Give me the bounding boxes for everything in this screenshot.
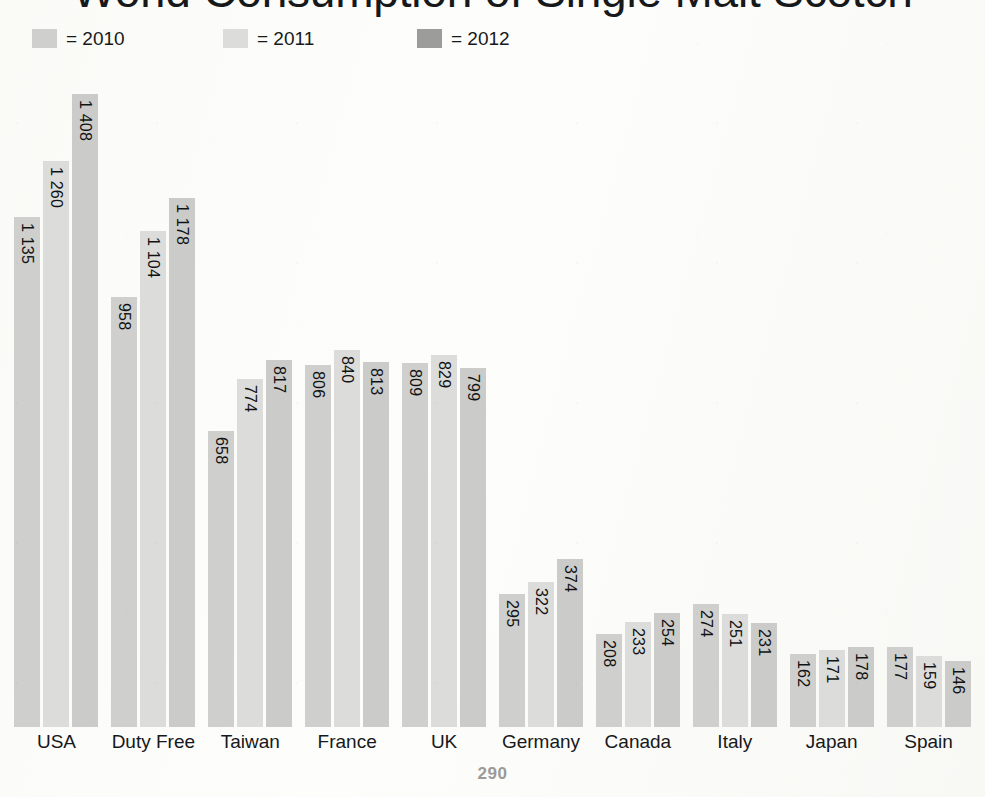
- legend-label-2011: = 2011: [257, 29, 314, 48]
- bar-groups: 1 1351 2601 4089581 1041 178658774817806…: [8, 62, 977, 727]
- category-label-uk: UK: [396, 731, 493, 759]
- bar-japan-2012[interactable]: 178: [848, 647, 874, 727]
- bar-value-label: 799: [464, 374, 482, 401]
- bar-canada-2010[interactable]: 208: [596, 634, 622, 727]
- bar-group-japan: 162171178: [783, 62, 880, 727]
- bar-value-label: 374: [561, 565, 579, 592]
- bar-usa-2012[interactable]: 1 408: [72, 94, 98, 727]
- bar-value-label: 1 178: [173, 204, 191, 245]
- bar-germany-2012[interactable]: 374: [557, 559, 583, 727]
- bar-value-label: 231: [755, 629, 773, 656]
- bar-value-label: 254: [658, 619, 676, 646]
- category-label-france: France: [299, 731, 396, 759]
- category-label-taiwan: Taiwan: [202, 731, 299, 759]
- legend-item-2012: = 2012: [417, 29, 510, 48]
- bar-value-label: 806: [309, 371, 327, 398]
- bar-value-label: 146: [949, 667, 967, 694]
- bar-value-label: 178: [852, 653, 870, 680]
- bar-value-label: 233: [629, 628, 647, 655]
- bar-uk-2010[interactable]: 809: [402, 363, 428, 727]
- bar-value-label: 177: [891, 653, 909, 680]
- legend-swatch-2011: [223, 29, 248, 48]
- bar-group-spain: 177159146: [880, 62, 977, 727]
- legend-swatch-2010: [32, 29, 57, 48]
- bar-value-label: 1 408: [76, 100, 94, 141]
- bar-duty-free-2010[interactable]: 958: [111, 297, 137, 727]
- bar-value-label: 1 104: [144, 237, 162, 278]
- bar-group-uk: 809829799: [396, 62, 493, 727]
- category-label-canada: Canada: [589, 731, 686, 759]
- bar-france-2011[interactable]: 840: [334, 350, 360, 727]
- bar-group-canada: 208233254: [589, 62, 686, 727]
- bar-duty-free-2011[interactable]: 1 104: [140, 231, 166, 727]
- category-label-japan: Japan: [783, 731, 880, 759]
- bar-value-label: 809: [406, 369, 424, 396]
- legend-item-2011: = 2011: [223, 29, 314, 48]
- bar-value-label: 958: [115, 303, 133, 330]
- bar-value-label: 813: [367, 368, 385, 395]
- bar-spain-2010[interactable]: 177: [887, 647, 913, 727]
- bar-germany-2011[interactable]: 322: [528, 582, 554, 727]
- bar-value-label: 208: [600, 640, 618, 667]
- category-label-spain: Spain: [880, 731, 977, 759]
- category-axis-labels: USADuty FreeTaiwanFranceUKGermanyCanadaI…: [8, 731, 977, 759]
- chart-legend: = 2010 = 2011 = 2012: [32, 29, 502, 53]
- bar-value-label: 159: [920, 662, 938, 689]
- bar-usa-2011[interactable]: 1 260: [43, 161, 69, 727]
- bar-value-label: 840: [338, 356, 356, 383]
- bar-usa-2010[interactable]: 1 135: [14, 217, 40, 727]
- legend-item-2010: = 2010: [32, 29, 125, 48]
- category-label-italy: Italy: [686, 731, 783, 759]
- bar-spain-2012[interactable]: 146: [945, 661, 971, 727]
- bar-value-label: 322: [532, 588, 550, 615]
- bar-value-label: 1 135: [18, 223, 36, 264]
- bar-group-usa: 1 1351 2601 408: [8, 62, 105, 727]
- bar-taiwan-2011[interactable]: 774: [237, 379, 263, 727]
- bar-group-germany: 295322374: [493, 62, 590, 727]
- bar-value-label: 817: [270, 366, 288, 393]
- legend-swatch-2012: [417, 29, 442, 48]
- bar-germany-2010[interactable]: 295: [499, 594, 525, 727]
- bar-value-label: 774: [241, 385, 259, 412]
- bar-value-label: 829: [435, 361, 453, 388]
- bar-group-duty-free: 9581 1041 178: [105, 62, 202, 727]
- bar-taiwan-2012[interactable]: 817: [266, 360, 292, 727]
- legend-label-2010: = 2010: [66, 29, 125, 48]
- bar-italy-2012[interactable]: 231: [751, 623, 777, 727]
- bar-uk-2011[interactable]: 829: [431, 355, 457, 727]
- bar-canada-2012[interactable]: 254: [654, 613, 680, 727]
- bar-value-label: 251: [726, 620, 744, 647]
- bar-taiwan-2010[interactable]: 658: [208, 431, 234, 727]
- bar-group-france: 806840813: [299, 62, 396, 727]
- bar-japan-2010[interactable]: 162: [790, 654, 816, 727]
- bar-italy-2010[interactable]: 274: [693, 604, 719, 727]
- bar-group-italy: 274251231: [686, 62, 783, 727]
- bar-france-2012[interactable]: 813: [363, 362, 389, 727]
- page-number: 290: [0, 764, 985, 784]
- bar-italy-2011[interactable]: 251: [722, 614, 748, 727]
- bar-value-label: 162: [794, 660, 812, 687]
- category-label-usa: USA: [8, 731, 105, 759]
- bar-spain-2011[interactable]: 159: [916, 656, 942, 727]
- bar-value-label: 658: [212, 437, 230, 464]
- bar-value-label: 295: [503, 600, 521, 627]
- page-title: World Consumption of Single Malt Scotch: [72, 0, 912, 18]
- bar-group-taiwan: 658774817: [202, 62, 299, 727]
- bar-value-label: 1 260: [47, 167, 65, 208]
- bar-duty-free-2012[interactable]: 1 178: [169, 198, 195, 727]
- bar-france-2010[interactable]: 806: [305, 365, 331, 727]
- scanned-page: World Consumption of Single Malt Scotch …: [0, 0, 985, 797]
- bar-japan-2011[interactable]: 171: [819, 650, 845, 727]
- bar-canada-2011[interactable]: 233: [625, 622, 651, 727]
- bar-value-label: 171: [823, 656, 841, 683]
- bar-chart-plot-area: 1 1351 2601 4089581 1041 178658774817806…: [0, 62, 985, 727]
- category-label-duty-free: Duty Free: [105, 731, 202, 759]
- legend-label-2012: = 2012: [451, 29, 510, 48]
- category-label-germany: Germany: [493, 731, 590, 759]
- bar-value-label: 274: [697, 610, 715, 637]
- bar-uk-2012[interactable]: 799: [460, 368, 486, 727]
